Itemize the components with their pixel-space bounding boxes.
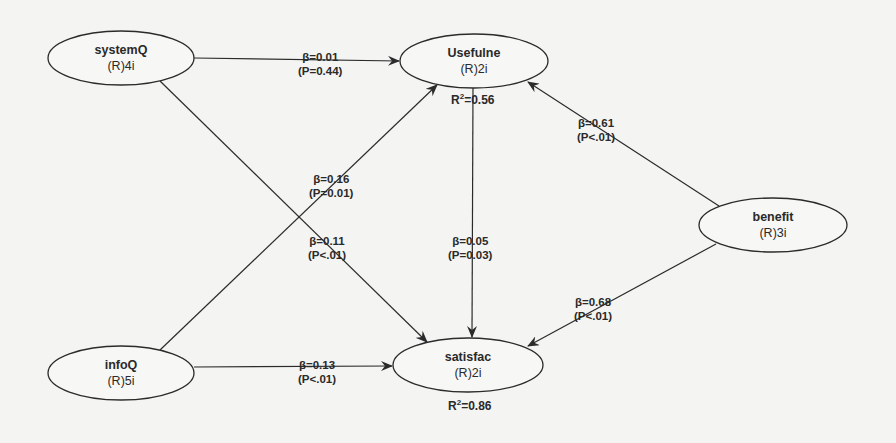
edge-usefulne-satisfac xyxy=(472,88,473,337)
edge-label-systemQ-usefulne: β=0.01 (P=0.44) xyxy=(298,50,342,78)
edge-systemQ-satisfac xyxy=(160,81,427,342)
node-systemQ: systemQ (R)4i xyxy=(61,42,181,74)
edge-label-infoQ-usefulne: β=0.16 (P=0.01) xyxy=(309,172,353,200)
node-infoQ-name: infoQ xyxy=(61,357,181,373)
node-benefit: benefit (R)3i xyxy=(713,209,833,241)
node-infoQ-indicators: (R)5i xyxy=(61,373,181,389)
r2-usefulne: R2=0.56 xyxy=(451,92,495,107)
node-satisfac: satisfac (R)2i xyxy=(408,349,528,381)
node-systemQ-indicators: (R)4i xyxy=(61,58,181,74)
node-satisfac-name: satisfac xyxy=(408,349,528,365)
edge-systemQ-usefulne xyxy=(194,58,399,61)
node-usefulne-name: Usefulne xyxy=(414,45,534,61)
r2-satisfac: R2=0.86 xyxy=(448,398,492,413)
edge-infoQ-usefulne xyxy=(160,85,437,350)
node-systemQ-name: systemQ xyxy=(61,42,181,58)
node-satisfac-indicators: (R)2i xyxy=(408,365,528,381)
node-benefit-name: benefit xyxy=(713,209,833,225)
edge-infoQ-satisfac xyxy=(194,366,392,367)
node-benefit-indicators: (R)3i xyxy=(713,225,833,241)
edge-benefit-usefulne xyxy=(528,82,719,206)
edge-label-infoQ-satisfac: β=0.13 (P<.01) xyxy=(298,358,336,386)
edge-label-usefulne-satisfac: β=0.05 (P=0.03) xyxy=(448,234,492,262)
edge-label-benefit-usefulne: β=0.61 (P<.01) xyxy=(577,116,615,144)
node-infoQ: infoQ (R)5i xyxy=(61,357,181,389)
node-usefulne-indicators: (R)2i xyxy=(414,61,534,77)
node-usefulne: Usefulne (R)2i xyxy=(414,45,534,77)
edge-label-systemQ-satisfac: β=0.11 (P<.01) xyxy=(308,234,346,262)
edge-label-benefit-satisfac: β=0.68 (P<.01) xyxy=(574,295,612,323)
edge-benefit-satisfac xyxy=(528,244,716,346)
